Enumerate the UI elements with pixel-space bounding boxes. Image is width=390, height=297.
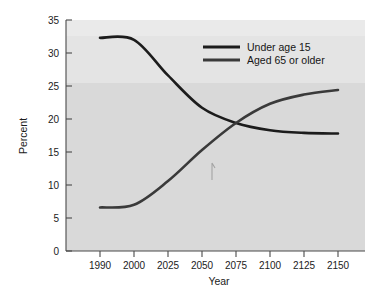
x-tick-label-1990: 1990 (89, 260, 112, 271)
y-axis-title: Percent (17, 118, 29, 154)
chart-figure: 35 30 25 20 15 10 5 0 1990 2000 2025 205… (0, 0, 390, 297)
y-tick-label-20: 20 (48, 114, 60, 125)
x-tick-label-2025: 2025 (157, 260, 180, 271)
x-axis-title: Year (208, 275, 230, 287)
y-tick-label-30: 30 (48, 48, 60, 59)
x-tick-label-2000: 2000 (123, 260, 146, 271)
x-tick-label-2075: 2075 (225, 260, 248, 271)
y-tick-label-35: 35 (48, 15, 60, 26)
y-tick-label-5: 5 (53, 213, 59, 224)
x-tick-label-2100: 2100 (259, 260, 282, 271)
paper-texture-band (66, 20, 365, 36)
y-tick-label-25: 25 (48, 81, 60, 92)
x-tick-label-2125: 2125 (293, 260, 316, 271)
legend-label-under-age-15: Under age 15 (247, 41, 311, 53)
y-tick-label-10: 10 (48, 180, 60, 191)
y-tick-label-0: 0 (53, 246, 59, 257)
y-tick-label-15: 15 (48, 147, 60, 158)
legend-label-aged-65-or-older: Aged 65 or older (247, 54, 325, 66)
x-tick-label-2150: 2150 (327, 260, 350, 271)
line-chart-svg: 35 30 25 20 15 10 5 0 1990 2000 2025 205… (0, 0, 390, 297)
x-tick-label-2050: 2050 (191, 260, 214, 271)
